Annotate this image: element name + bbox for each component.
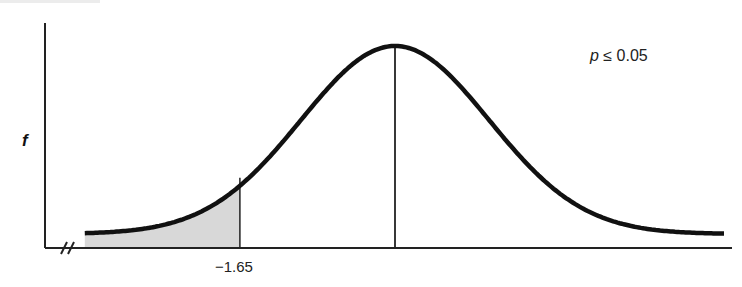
significance-annotation: p ≤ 0.05 <box>590 47 648 65</box>
p-variable: p <box>590 47 599 64</box>
y-axis-label: f <box>22 131 28 151</box>
relation-symbol: ≤ <box>603 47 612 64</box>
alpha-value: 0.05 <box>617 47 648 64</box>
density-curve <box>85 46 724 234</box>
rejection-region <box>85 186 240 248</box>
critical-value-label: −1.65 <box>215 258 253 275</box>
normal-curve-chart <box>0 0 742 287</box>
